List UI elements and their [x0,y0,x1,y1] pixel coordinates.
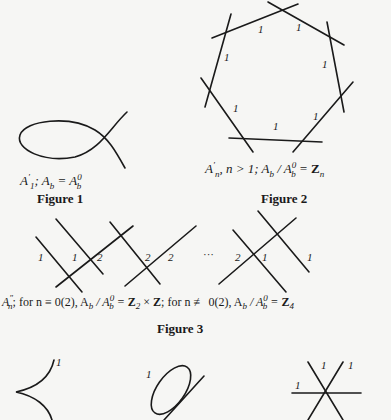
svg-text:1: 1 [348,359,354,371]
figure2-line [201,78,253,152]
svg-text:1: 1 [56,356,62,368]
svg-text:2: 2 [168,251,174,263]
figure2-line [229,138,322,142]
svg-text:1: 1 [307,251,313,263]
cusp-curve [16,360,54,420]
svg-text:1: 1 [273,120,279,132]
svg-text:1: 1 [296,21,302,33]
svg-text:1: 1 [224,51,230,63]
svg-text:1: 1 [295,379,301,391]
svg-text:1: 1 [233,102,239,114]
svg-text:2: 2 [97,251,103,263]
figure3-title: Figure 3 [157,321,203,337]
svg-text:···: ··· [203,248,214,260]
figure2-caption: A′n, n > 1; Ab / A0b = Zn [205,160,324,179]
figure2-title: Figure 2 [261,191,307,207]
figure1-title: Figure 1 [37,191,83,207]
figure1-caption: A′1; Ab = A0b [20,172,81,191]
figure2-line [327,22,344,112]
svg-text:1: 1 [72,251,78,263]
svg-text:2: 2 [235,251,241,263]
svg-text:1: 1 [321,359,327,371]
svg-text:1: 1 [38,251,44,263]
svg-text:2: 2 [145,251,151,263]
svg-text:1: 1 [313,110,319,122]
svg-text:1: 1 [322,58,328,70]
figures-canvas: 11 11 111 112 22 211 ··· 1 1 111 [0,0,391,420]
figure2-line [268,2,344,45]
ellipse-curve [143,359,198,420]
svg-text:1: 1 [262,251,268,263]
svg-text:1: 1 [258,23,264,35]
svg-text:1: 1 [146,368,152,380]
figure3-caption: A″n; for n ≡ 0(2), Ab / A0b = Z2 × Z; fo… [2,293,294,311]
figure1-node-curve [19,112,127,168]
